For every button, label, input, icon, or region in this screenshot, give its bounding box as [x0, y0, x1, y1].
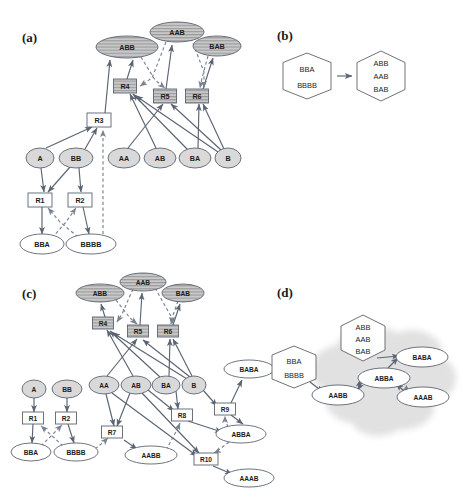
edge-abba-r9-dashed-c — [225, 416, 228, 427]
node-ab-c[interactable]: AB — [121, 376, 151, 394]
node-r2-c[interactable]: R2 — [56, 412, 77, 424]
node-bbbb-c[interactable]: BBBB — [54, 443, 98, 461]
hex-line: AAB — [356, 335, 371, 344]
node-aaab-c[interactable]: AAAB — [224, 469, 274, 487]
edge-r8-abba-c — [188, 421, 222, 432]
edge-r5-aab-c — [140, 293, 142, 325]
node-r2-a[interactable]: R2 — [68, 193, 92, 207]
node-r6-a[interactable]: R6 — [186, 89, 209, 103]
node-aa-c[interactable]: AA — [89, 376, 119, 394]
node-abb-a[interactable]: ABB — [96, 36, 158, 58]
edge-ba-r4-c — [110, 331, 160, 377]
node-label: AB — [131, 382, 141, 389]
node-aaab-d[interactable]: AAAB — [397, 387, 449, 407]
node-label: BABA — [239, 366, 258, 373]
node-label: AABB — [141, 452, 160, 459]
node-baba-d[interactable]: BABA — [396, 347, 448, 367]
node-label: BA — [161, 382, 171, 389]
panel-d-label: (d) — [277, 285, 293, 300]
hexagon-bba-bbbb-d[interactable]: BBA BBBB — [272, 346, 316, 388]
node-label: BABA — [412, 354, 431, 361]
node-abba-c[interactable]: ABBA — [216, 425, 266, 443]
node-baba-c[interactable]: BABA — [224, 360, 274, 378]
node-label: R5 — [160, 92, 169, 101]
node-bab-a[interactable]: BAB — [193, 36, 241, 56]
edge-aabb-r8-dashed-c — [166, 423, 180, 450]
node-r7-c[interactable]: R7 — [102, 426, 123, 438]
node-aa-a[interactable]: AA — [108, 148, 140, 168]
node-label: R2 — [75, 196, 84, 205]
node-r4-a[interactable]: R4 — [114, 79, 137, 93]
node-label: AAB — [136, 279, 151, 286]
node-label: AB — [155, 154, 165, 163]
node-bb-c[interactable]: BB — [52, 380, 82, 398]
node-aab-a[interactable]: AAB — [150, 22, 204, 42]
node-b-c[interactable]: B — [182, 376, 206, 394]
node-abb-c[interactable]: ABB — [76, 284, 124, 302]
node-aab-c[interactable]: AAB — [120, 273, 166, 291]
panel-c-label: (c) — [22, 286, 36, 301]
edge-ba-r6 — [198, 104, 199, 148]
node-label: R6 — [192, 92, 201, 101]
node-aabb-d[interactable]: AABB — [312, 385, 364, 405]
panel-a-edges — [41, 38, 224, 238]
node-aabb-c[interactable]: AABB — [125, 446, 177, 464]
edge-a-r1 — [41, 168, 44, 192]
node-b-a[interactable]: B — [215, 148, 241, 168]
node-label: AAB — [169, 28, 185, 37]
hex-line: AAB — [374, 72, 389, 81]
node-bb-a[interactable]: BB — [59, 148, 93, 168]
node-r4-c[interactable]: R4 — [93, 317, 114, 329]
node-label: A — [37, 154, 42, 163]
node-label: ABB — [93, 290, 108, 297]
node-r3-a[interactable]: R3 — [87, 113, 111, 127]
node-label: ABBA — [231, 431, 250, 438]
node-r9-c[interactable]: R9 — [215, 403, 236, 415]
edge-b-r4-c — [113, 333, 187, 379]
panel-a: (a) — [20, 22, 241, 254]
hexagon-bba-bbbb[interactable]: BBA BBBB — [283, 53, 331, 99]
node-r1-a[interactable]: R1 — [28, 193, 52, 207]
node-label: AABB — [328, 392, 347, 399]
node-bba-a[interactable]: BBA — [20, 234, 64, 254]
hexagon-abb-aab-bab[interactable]: ABB AAB BAB — [357, 51, 405, 101]
figure-root: (a) — [0, 0, 463, 500]
node-ab-a[interactable]: AB — [144, 148, 176, 168]
node-r5-a[interactable]: R5 — [154, 89, 177, 103]
edge-bbbb-r1-dashed-c — [41, 426, 63, 446]
panel-d: (d) — [272, 285, 456, 436]
edge-aa-r7-c — [106, 394, 114, 426]
edge-bba-r2-dashed — [52, 208, 76, 238]
hex-line: BAB — [374, 85, 389, 94]
node-label: R1 — [35, 196, 44, 205]
node-label: BBBB — [81, 240, 102, 249]
node-r5-c[interactable]: R5 — [128, 325, 149, 337]
node-r6-c[interactable]: R6 — [158, 325, 179, 337]
edge-r5-aab — [166, 45, 172, 89]
panel-b-label: (b) — [277, 28, 293, 43]
node-r8-c[interactable]: R8 — [172, 409, 193, 421]
node-abba-d[interactable]: ABBA — [358, 368, 410, 388]
node-label: BAB — [176, 290, 191, 297]
edge-bb-r1 — [48, 167, 70, 192]
edge-a-r3 — [46, 127, 92, 148]
node-bba-c[interactable]: BBA — [11, 443, 51, 461]
node-ba-a[interactable]: BA — [179, 148, 211, 168]
node-ba-c[interactable]: BA — [152, 376, 180, 394]
node-label: BBA — [24, 449, 39, 456]
node-r10-c[interactable]: R10 — [194, 453, 218, 465]
node-label: R6 — [164, 328, 173, 335]
edge-b-r6 — [203, 104, 224, 149]
panel-c-nodes: ABB AAB BAB R4 R5 R6 — [11, 273, 274, 487]
node-a-c[interactable]: A — [22, 380, 46, 398]
node-r1-c[interactable]: R1 — [23, 412, 44, 424]
node-label: R2 — [62, 415, 71, 422]
edge-abb-r5-dashed-c — [116, 300, 137, 324]
edge-r9-baba-c — [231, 380, 242, 403]
node-bbbb-a[interactable]: BBBB — [66, 234, 116, 254]
edge-r9-abba-c — [231, 415, 243, 424]
hex-line: BBBB — [297, 81, 317, 90]
node-a-a[interactable]: A — [26, 148, 54, 168]
node-bab-c[interactable]: BAB — [162, 284, 204, 302]
node-label: B — [225, 154, 230, 163]
